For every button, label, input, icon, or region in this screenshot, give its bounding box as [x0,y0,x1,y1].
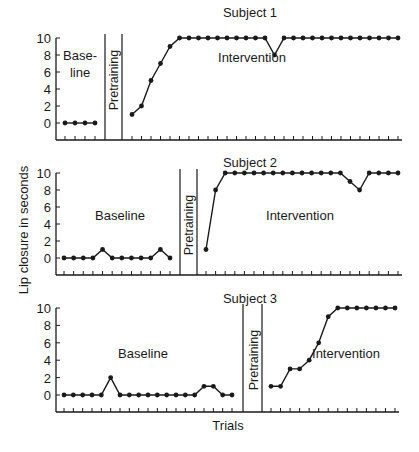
y-tick-label: 4 [44,353,51,368]
data-point [335,306,340,311]
data-point [90,393,95,398]
data-point [244,36,249,41]
data-point [149,78,154,83]
phase-label-baseline: Baseline [95,208,145,223]
y-tick-label: 6 [44,336,51,351]
phase-label-baseline: Base- [63,48,97,63]
data-point [187,36,192,41]
data-point [230,393,235,398]
panel-title: Subject 1 [223,5,277,20]
data-point [206,36,211,41]
y-tick-label: 6 [44,65,51,80]
y-tick-label: 8 [44,48,51,63]
data-point [271,171,276,176]
data-point [348,36,353,41]
phase-label-pretraining: Pretraining [247,330,261,390]
data-point [309,171,314,176]
y-tick-label: 10 [37,31,51,46]
data-point [376,171,381,176]
y-tick-label: 0 [44,116,51,131]
y-tick-label: 0 [44,251,51,266]
panel-title: Subject 2 [223,155,277,170]
data-point [310,36,315,41]
data-point [339,36,344,41]
data-point [80,393,85,398]
panel-subject-1: Subject 10246810Base-linePretrainingInte… [37,5,402,140]
data-point [183,393,188,398]
data-point [196,36,201,41]
x-axis-label: Trials [212,418,244,433]
y-tick-label: 4 [44,217,51,232]
data-point [71,256,76,261]
data-point [300,171,305,176]
data-point [282,36,287,41]
baseline-line [64,378,232,395]
data-point [386,171,391,176]
data-point [174,393,179,398]
data-point [367,36,372,41]
data-point [220,393,225,398]
panel-subject-3: Subject 30246810BaselinePretrainingInter… [37,291,399,412]
y-tick-label: 2 [44,99,51,114]
data-point [348,179,353,184]
data-point [225,36,230,41]
data-point [204,247,209,252]
data-point [93,121,98,126]
data-point [261,171,266,176]
data-point [215,36,220,41]
data-point [386,36,391,41]
data-point [127,393,132,398]
data-point [148,256,153,261]
data-point [253,36,258,41]
data-point [316,340,321,345]
data-point [263,36,268,41]
data-point [301,36,306,41]
phase-label-baseline: Baseline [118,346,168,361]
data-point [129,256,134,261]
data-point [357,188,362,193]
data-point [192,393,197,398]
data-point [396,171,401,176]
phase-label-pretraining: Pretraining [107,50,121,110]
data-point [326,314,331,319]
y-tick-label: 8 [44,318,51,333]
data-point [367,171,372,176]
data-point [354,306,359,311]
y-tick-label: 6 [44,200,51,215]
y-tick-label: 8 [44,183,51,198]
data-point [358,36,363,41]
data-point [119,256,124,261]
data-point [164,393,169,398]
data-point [232,171,237,176]
data-point [177,36,182,41]
data-point [158,61,163,66]
data-point [202,384,207,389]
data-point [393,306,398,311]
panel-title: Subject 3 [223,291,277,306]
data-point [146,393,151,398]
phase-label-intervention: Intervention [218,50,286,65]
data-point [155,393,160,398]
y-axis-label: Lip closure in seconds [16,165,31,294]
data-point [158,247,163,252]
y-tick-label: 2 [44,234,51,249]
data-point [73,121,78,126]
data-point [118,393,123,398]
data-point [338,171,343,176]
data-point [139,104,144,109]
data-point [108,375,113,380]
data-point [290,171,295,176]
data-point [99,393,104,398]
data-point [242,171,247,176]
phase-label-pretraining: Pretraining [182,195,196,255]
y-tick-label: 0 [44,388,51,403]
phase-label-intervention: Intervention [266,208,334,223]
data-point [329,36,334,41]
data-point [278,384,283,389]
data-point [83,121,88,126]
data-point [63,121,68,126]
data-point [213,188,218,193]
data-point [71,393,76,398]
data-point [110,256,115,261]
data-point [319,171,324,176]
